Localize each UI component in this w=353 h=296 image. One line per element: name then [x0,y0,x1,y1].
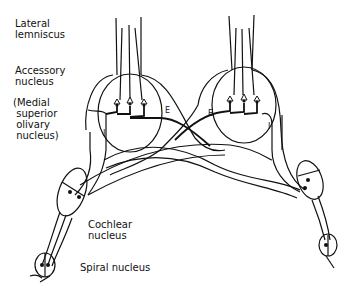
label-spiral-nucleus: Spiral nucleus [80,262,150,273]
label-cochlear-nucleus: Cochlear nucleus [88,219,132,241]
auditory-pathway-diagram [0,0,353,296]
right-accessory-nucleus-outline [110,70,228,175]
right-lemniscus-fibers [229,15,254,95]
marker-right-inhibitory: I [268,122,270,131]
label-medial-superior-olivary-nucleus: (Medial superior olivary nucleus) [13,97,59,141]
label-accessory-nucleus: Accessory nucleus [15,65,65,87]
crossing-fibers [104,147,300,190]
marker-left-inhibitory: I [103,129,105,138]
marker-left-excitatory: E [165,106,170,115]
left-lemniscus-fibers [116,17,142,100]
right-neurons [227,94,260,104]
marker-right-excitatory: E [208,109,213,118]
label-lateral-lemniscus: Lateral lemniscus [15,18,65,40]
